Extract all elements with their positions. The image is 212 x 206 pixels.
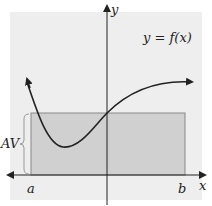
average-value-diagram: AV y x a b y = f(x) [0,0,212,206]
diagram-canvas: AV y x a b y = f(x) [0,0,212,206]
right-bound-label: b [178,181,186,196]
average-value-label: AV [0,136,21,151]
y-axis-label: y [110,2,119,17]
function-label: y = f(x) [142,30,192,45]
left-bound-label: a [27,181,35,196]
average-value-rectangle [31,113,185,175]
x-axis-label: x [199,178,207,193]
